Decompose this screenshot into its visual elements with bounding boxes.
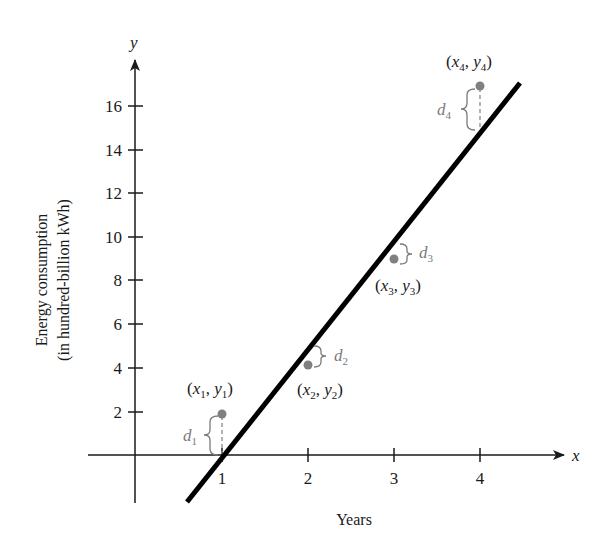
y-tick-label-4: 4 (114, 359, 123, 378)
x-tick-label-1: 1 (218, 469, 227, 488)
regression-line (187, 83, 520, 502)
data-point-2 (304, 361, 313, 370)
brace-d4 (461, 89, 475, 130)
y-tick-label-2: 2 (114, 403, 123, 422)
brace-d1 (204, 416, 218, 455)
residual-label-d3: d3 (419, 243, 434, 264)
y-axis-title-line1: Energy consumption (33, 214, 51, 347)
residual-braces (204, 89, 475, 455)
y-tick-labels: 2 4 6 8 10 12 14 16 (105, 97, 123, 422)
brace-d2 (314, 346, 326, 367)
y-tick-label-6: 6 (114, 315, 123, 334)
y-tick-label-8: 8 (114, 271, 123, 290)
x-tick-labels: 1 2 3 4 (218, 469, 485, 488)
point-label-3: (x3, y3) (375, 276, 421, 297)
x-axis-title: Years (336, 511, 372, 528)
y-tick-label-10: 10 (105, 228, 122, 247)
data-point-4 (476, 82, 485, 91)
y-axis-title: Energy consumption (in hundred-billion k… (33, 199, 73, 361)
x-tick-label-2: 2 (304, 469, 313, 488)
data-points (218, 82, 485, 419)
x-axis-variable: x (571, 446, 580, 465)
x-tick-label-3: 3 (390, 469, 399, 488)
point-label-2: (x2, y2) (297, 380, 343, 401)
point-label-1: (x1, y1) (187, 379, 233, 400)
residual-label-d1: d1 (183, 426, 197, 447)
y-tick-label-12: 12 (105, 184, 122, 203)
residual-label-d2: d2 (334, 346, 348, 367)
brace-d3 (400, 244, 412, 264)
y-tick-label-14: 14 (105, 141, 123, 160)
regression-chart: x y 1 2 3 4 2 4 6 8 10 12 14 16 Years En (0, 0, 614, 544)
y-axis-variable: y (128, 33, 138, 52)
residual-lines (222, 88, 480, 454)
y-tick-label-16: 16 (105, 97, 122, 116)
data-point-3 (390, 255, 399, 264)
residual-label-d4: d4 (437, 100, 452, 121)
data-point-1 (218, 410, 227, 419)
y-axis-title-line2: (in hundred-billion kWh) (55, 199, 73, 361)
point-label-4: (x4, y4) (446, 52, 492, 73)
x-tick-label-4: 4 (476, 469, 485, 488)
